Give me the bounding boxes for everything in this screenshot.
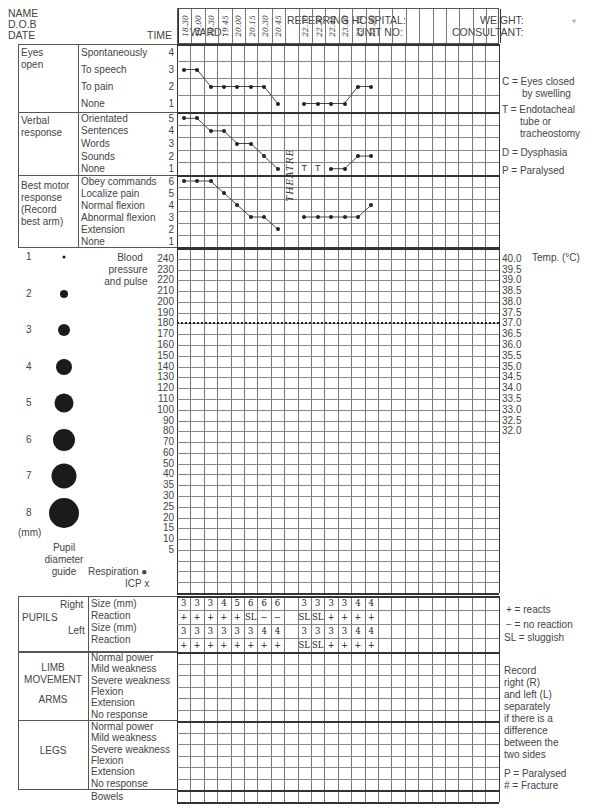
time-cell[interactable]: 22.45 (325, 9, 338, 43)
pupil-right-reaction-cell[interactable]: + (177, 610, 190, 624)
pupil-right-reaction-cell[interactable]: − (271, 610, 284, 624)
time-cell[interactable]: 20.30 (258, 9, 271, 43)
time-cell[interactable]: 23.30 (366, 9, 379, 43)
grid-row-line (177, 767, 499, 768)
pupil-right-size-cell[interactable]: 4 (365, 596, 378, 610)
pupil-left-size-cell[interactable]: 3 (311, 624, 324, 638)
time-cell[interactable] (419, 9, 432, 43)
pupil-right-reaction-cell[interactable]: + (204, 610, 217, 624)
bp-scale-tick: 35 (150, 480, 174, 490)
pupil-right-size-cell[interactable]: 3 (338, 596, 351, 610)
pupil-left-reaction-cell[interactable]: + (231, 638, 244, 652)
pupil-right-reaction-cell[interactable]: SL (311, 610, 324, 624)
pupil-right-size-cell[interactable]: 4 (351, 596, 364, 610)
pupils-grid[interactable]: 33345666333344+++++SL−−SLSL++++333333443… (177, 596, 499, 652)
pupil-right-reaction-cell[interactable]: + (190, 610, 203, 624)
eyes-option-label: Spontaneously (81, 47, 147, 58)
time-cell[interactable] (486, 9, 499, 43)
limb-grid[interactable] (177, 652, 499, 802)
pupil-right-size-cell[interactable]: 3 (324, 596, 337, 610)
grid-row-line (177, 744, 499, 745)
time-cell[interactable]: 22.30 (312, 9, 325, 43)
time-cell[interactable] (285, 9, 298, 43)
pupil-left-reaction-cell[interactable]: + (244, 638, 257, 652)
pupil-left-reaction-cell[interactable]: + (351, 638, 364, 652)
time-cell[interactable]: 22.10 (299, 9, 312, 43)
pupil-left-reaction-cell[interactable]: + (338, 638, 351, 652)
time-cell[interactable]: 20.15 (245, 9, 258, 43)
pupil-size-number: 5 (26, 397, 32, 408)
key-no-reaction: − = no reaction (506, 619, 573, 631)
pupil-left-size-cell[interactable]: 4 (257, 624, 270, 638)
grid-row-line (177, 496, 499, 497)
pupil-left-reaction-cell[interactable]: SL (298, 638, 311, 652)
pupil-size-number: 3 (26, 324, 32, 335)
motor-option-score: 1 (162, 236, 174, 247)
time-cell[interactable]: 19.00 (191, 9, 204, 43)
limb-title: LIMB (18, 662, 88, 673)
pupil-left-size-cell[interactable]: 4 (365, 624, 378, 638)
pupil-left-size-cell[interactable]: 3 (338, 624, 351, 638)
key-sluggish: SL = sluggish (504, 632, 564, 644)
pupil-right-size-cell[interactable]: 3 (311, 596, 324, 610)
pupil-left-size-cell[interactable]: 3 (244, 624, 257, 638)
pupil-left-size-cell[interactable]: 3 (217, 624, 230, 638)
pupil-left-size-cell[interactable]: 3 (204, 624, 217, 638)
pupil-left-reaction-cell[interactable]: + (271, 638, 284, 652)
pupil-left-reaction-cell[interactable]: + (365, 638, 378, 652)
icp-label: ICP x (125, 578, 149, 589)
pupil-left-size-cell[interactable]: 4 (351, 624, 364, 638)
pupil-left-size-cell[interactable]: 3 (324, 624, 337, 638)
time-cell[interactable]: 19.45 (218, 9, 231, 43)
pupil-right-reaction-cell[interactable]: + (338, 610, 351, 624)
pupil-right-reaction-cell[interactable]: SL (244, 610, 257, 624)
pupil-right-reaction-cell[interactable]: + (351, 610, 364, 624)
pupil-right-size-cell[interactable]: 3 (204, 596, 217, 610)
pupil-right-size-cell[interactable]: 6 (244, 596, 257, 610)
pupil-left-size-cell[interactable]: 4 (271, 624, 284, 638)
time-cell[interactable]: 19.30 (205, 9, 218, 43)
motor-option-label: Abnormal flexion (81, 212, 155, 223)
pupil-left-reaction-cell[interactable]: + (190, 638, 203, 652)
time-cell[interactable]: 20.00 (232, 9, 245, 43)
pupil-left-size-cell[interactable]: 3 (190, 624, 203, 638)
vitals-chart-grid[interactable] (177, 248, 499, 593)
time-cell[interactable] (392, 9, 405, 43)
pupil-left-size-cell[interactable]: 3 (298, 624, 311, 638)
pupil-right-reaction-cell[interactable]: SL (298, 610, 311, 624)
pupil-right-reaction-cell[interactable]: + (324, 610, 337, 624)
motor-option-score: 3 (162, 212, 174, 223)
pupil-right-size-cell[interactable]: 3 (177, 596, 190, 610)
pupil-right-size-cell[interactable]: 3 (298, 596, 311, 610)
grid-column-line (500, 9, 501, 43)
pupil-left-size-cell[interactable]: 3 (177, 624, 190, 638)
pupil-left-reaction-cell[interactable]: SL (311, 638, 324, 652)
pupil-right-size-cell[interactable]: 3 (190, 596, 203, 610)
pupil-left-reaction-cell[interactable]: + (177, 638, 190, 652)
pupil-right-reaction-cell[interactable]: + (365, 610, 378, 624)
pupil-right-size-cell[interactable]: 5 (231, 596, 244, 610)
limb-key-paralysed: P = Paralysed (504, 768, 566, 780)
time-cell[interactable] (446, 9, 459, 43)
time-cell[interactable] (433, 9, 446, 43)
time-cell[interactable]: 23.15 (352, 9, 365, 43)
pupil-right-reaction-cell[interactable]: − (257, 610, 270, 624)
pupil-right-reaction-cell[interactable]: + (217, 610, 230, 624)
pupil-right-reaction-cell[interactable]: + (231, 610, 244, 624)
coma-scale-grid[interactable]: TT (177, 44, 499, 248)
time-cell[interactable]: 23.00 (339, 9, 352, 43)
time-cell[interactable] (379, 9, 392, 43)
time-cell[interactable] (473, 9, 486, 43)
pupil-left-size-cell[interactable]: 3 (231, 624, 244, 638)
pupil-right-size-cell[interactable]: 4 (217, 596, 230, 610)
pupil-left-reaction-cell[interactable]: + (324, 638, 337, 652)
pupil-left-reaction-cell[interactable]: + (257, 638, 270, 652)
pupil-left-reaction-cell[interactable]: + (204, 638, 217, 652)
pupil-left-reaction-cell[interactable]: + (217, 638, 230, 652)
time-cell[interactable] (406, 9, 419, 43)
time-cell[interactable] (459, 9, 472, 43)
time-cell[interactable]: 20.45 (272, 9, 285, 43)
time-cell[interactable]: 18.30 (178, 9, 191, 43)
pupil-right-size-cell[interactable]: 6 (271, 596, 284, 610)
pupil-right-size-cell[interactable]: 6 (257, 596, 270, 610)
